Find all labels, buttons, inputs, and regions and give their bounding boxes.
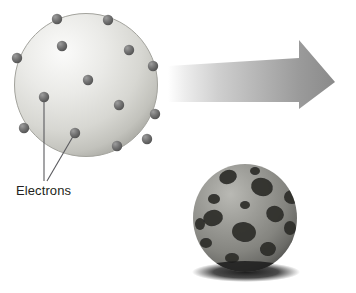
ball-spot-13 [291, 238, 301, 250]
electron-dot-9 [39, 92, 49, 102]
electron-dot-13 [112, 141, 122, 151]
ball-spot-10 [200, 238, 212, 248]
electron-dot-6 [148, 61, 158, 71]
ball-spot-3 [284, 190, 300, 204]
electron-dot-2 [103, 15, 113, 25]
electron-dot-12 [70, 128, 80, 138]
electron-dot-14 [142, 134, 152, 144]
electron-dot-11 [19, 123, 29, 133]
ball-spot-4 [208, 194, 220, 204]
arrow-shape [168, 40, 335, 109]
electron-dot-1 [52, 14, 62, 24]
electron-dot-8 [114, 100, 124, 110]
electron-dot-7 [83, 75, 93, 85]
electron-dot-5 [12, 53, 22, 63]
electrons-label: Electrons [16, 183, 71, 198]
atom-sphere [15, 14, 158, 157]
figure-canvas: Electrons [0, 0, 356, 293]
atom-diagram-svg [0, 0, 178, 210]
transform-arrow [160, 40, 356, 120]
atom-diagram: Electrons [0, 0, 178, 210]
ball-spot-9 [284, 221, 296, 235]
ball-spot-5 [240, 201, 250, 209]
ball-spot-14 [250, 167, 260, 175]
electron-dot-10 [150, 109, 160, 119]
ball-photo [180, 158, 312, 293]
electron-dot-3 [57, 41, 67, 51]
electron-dot-4 [124, 45, 134, 55]
ball-spot-15 [195, 218, 205, 230]
